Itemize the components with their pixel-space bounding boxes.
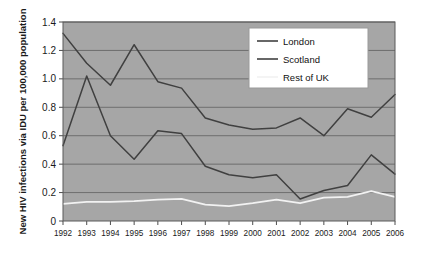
y-tick-label: 0.6 — [42, 130, 56, 141]
chart-legend: LondonScotlandRest of UK — [249, 28, 368, 88]
x-tick-label: 1996 — [149, 229, 168, 238]
x-tick-label: 2003 — [315, 229, 334, 238]
x-tick-label: 2000 — [244, 229, 263, 238]
x-tick-label: 2006 — [386, 229, 405, 238]
x-tick-label: 1992 — [54, 229, 73, 238]
x-tick-label: 1995 — [125, 229, 144, 238]
chart-figure: 1.41.21.00.80.60.40.20 19921993199419951… — [0, 0, 430, 253]
y-axis-label-group: New HIV infections via IDU per 100,000 p… — [17, 8, 28, 234]
x-tick-label: 2005 — [362, 229, 381, 238]
legend-label: Scotland — [283, 54, 320, 65]
y-tick-label: 0.2 — [42, 187, 56, 198]
y-tick-label: 0.4 — [42, 159, 56, 170]
x-tick-label: 1997 — [172, 229, 191, 238]
x-tick-label: 1999 — [220, 229, 239, 238]
y-tick-label: 1.2 — [42, 45, 56, 56]
y-axis-label: New HIV infections via IDU per 100,000 p… — [17, 8, 28, 234]
y-tick-label: 1.4 — [42, 17, 56, 28]
y-tick-label: 1.0 — [42, 73, 56, 84]
legend-label: Rest of UK — [283, 72, 330, 83]
x-tick-label: 2001 — [267, 229, 286, 238]
x-tick-label: 2004 — [338, 229, 357, 238]
y-tick-label: 0.8 — [42, 102, 56, 113]
line-chart: 1.41.21.00.80.60.40.20 19921993199419951… — [0, 0, 430, 253]
x-tick-label: 2002 — [291, 229, 310, 238]
x-tick-label: 1993 — [78, 229, 97, 238]
legend-label: London — [283, 36, 315, 47]
x-tick-label: 1998 — [196, 229, 215, 238]
x-tick-label: 1994 — [101, 229, 120, 238]
y-tick-label: 0 — [50, 216, 56, 227]
